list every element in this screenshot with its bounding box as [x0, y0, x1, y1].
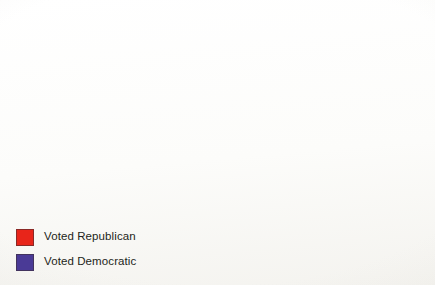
- state-OR: [52, 52, 104, 90]
- state-MA: [390, 68, 420, 82]
- us-map-svg: [0, 0, 435, 232]
- state-CO: [155, 86, 206, 130]
- state-AR: [251, 140, 282, 170]
- state-OK: [203, 136, 252, 160]
- state-CA: [46, 88, 100, 182]
- state-NC: [336, 144, 378, 160]
- state-UT: [122, 84, 158, 130]
- state-KS: [205, 110, 242, 136]
- us-map-container: [0, 0, 435, 232]
- legend-swatch-democratic: [16, 254, 34, 271]
- election-map-figure: Voted Republican Voted Democratic: [0, 0, 435, 285]
- state-NY: [338, 64, 394, 96]
- state-WA: [58, 21, 106, 52]
- state-WY: [120, 58, 184, 87]
- state-NM: [148, 130, 204, 178]
- legend-item-republican: Voted Republican: [16, 228, 136, 246]
- legend-label-republican: Voted Republican: [44, 231, 136, 243]
- state-RI: [403, 81, 410, 90]
- state-ND: [185, 24, 232, 56]
- state-MT: [124, 24, 186, 60]
- legend-swatch-republican: [16, 229, 34, 246]
- legend-item-democratic: Voted Democratic: [16, 253, 136, 271]
- state-IN: [290, 100, 310, 134]
- state-CT: [390, 82, 404, 94]
- state-SD: [184, 56, 230, 86]
- state-MN: [231, 28, 268, 72]
- state-FL: [312, 190, 358, 230]
- state-AL: [298, 160, 318, 198]
- legend-label-democratic: Voted Democratic: [44, 256, 136, 268]
- map-legend: Voted Republican Voted Democratic: [16, 228, 136, 271]
